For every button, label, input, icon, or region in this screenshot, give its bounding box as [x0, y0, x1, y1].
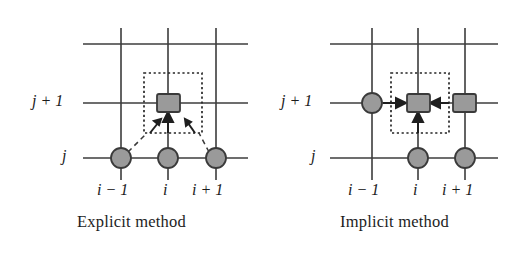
axis-label-j-plus-1-text: j + 1 [32, 92, 63, 109]
axis-label-j: j [62, 147, 66, 165]
arrow-from-below [413, 112, 423, 133]
axis-label-i-text: i [163, 181, 167, 198]
axis-label-i: i [413, 181, 417, 199]
caption-implicit-method: Implicit method [263, 212, 526, 232]
arrow-from-iminus1-j [150, 119, 161, 133]
axis-label-i-minus-1-text: i − 1 [97, 181, 128, 198]
axis-label-j-plus-1: j + 1 [32, 92, 63, 110]
axis-label-j-text: j [62, 147, 66, 164]
node-known-iminus1-j [111, 148, 131, 168]
axis-label-j-plus-1: j + 1 [281, 92, 312, 110]
node-known-i-j [408, 148, 428, 168]
node-unknown-i-jplus1 [407, 94, 430, 112]
node-known-iplus1-j [455, 148, 475, 168]
arrow-from-right [430, 98, 449, 108]
axis-label-i-text: i [413, 181, 417, 198]
arrow-from-i-j [163, 112, 173, 133]
arrows-explicit [150, 112, 195, 133]
axis-label-j-text: j [311, 147, 315, 164]
axis-label-i-plus-1: i + 1 [192, 181, 223, 199]
axis-label-i-plus-1: i + 1 [442, 181, 473, 199]
axis-label-i-minus-1: i − 1 [348, 181, 379, 199]
axis-label-i-plus-1-text: i + 1 [442, 181, 473, 198]
axis-label-j-plus-1-text: j + 1 [281, 92, 312, 109]
dashed-link-left [128, 133, 147, 152]
stencil-figure: j + 1 j i − 1 i i + 1 Explicit method [0, 0, 526, 258]
node-unknown-iplus1-jplus1 [453, 94, 476, 112]
caption-explicit-method: Explicit method [0, 212, 263, 232]
axis-label-i-minus-1: i − 1 [97, 181, 128, 199]
panel-explicit-method: j + 1 j i − 1 i i + 1 Explicit method [0, 0, 263, 258]
node-unknown-i-jplus1 [157, 94, 180, 112]
panel-implicit-method: j + 1 j i − 1 i i + 1 Implicit method [263, 0, 526, 258]
dashed-link-right [199, 133, 209, 152]
arrow-from-iplus1-j [185, 119, 195, 133]
axis-label-i: i [163, 181, 167, 199]
node-known-iplus1-j [206, 148, 226, 168]
axis-label-j: j [311, 147, 315, 165]
node-known-i-j [158, 148, 178, 168]
axis-label-i-plus-1-text: i + 1 [192, 181, 223, 198]
axis-label-i-minus-1-text: i − 1 [348, 181, 379, 198]
arrow-from-left [383, 98, 406, 108]
node-known-iminus1-jplus1 [362, 93, 382, 113]
